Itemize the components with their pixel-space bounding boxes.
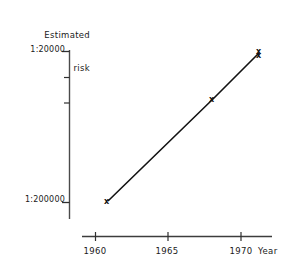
x-tick-label-1965: 1965 (147, 246, 187, 256)
x-tick-label-1960: 1960 (75, 246, 115, 256)
x-axis-title: Year (258, 246, 278, 256)
y-tick-label-bottom: 1:200000 (7, 195, 65, 204)
y-tick-label-top: 1:20000 (13, 45, 65, 54)
data-line-series-1 (108, 53, 259, 201)
y-axis-title-line-2: risk (16, 63, 90, 74)
chart-page: Estimated risk 1:20000 1:200000 1960 196… (0, 0, 291, 270)
data-point-marker-4: x (256, 52, 261, 60)
x-tick-label-1970: 1970 (221, 246, 261, 256)
data-point-marker-1: x (104, 198, 109, 206)
y-axis-title-line-1: Estimated (16, 30, 90, 41)
data-point-marker-2: x (209, 96, 214, 104)
